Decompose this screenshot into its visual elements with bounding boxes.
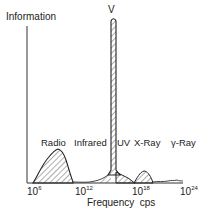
uv-shoulder: [116, 172, 135, 183]
xray-hump: [134, 171, 153, 183]
region-label-gamma: γ-Ray: [171, 138, 196, 148]
x-tick-1e12: 1012: [75, 186, 93, 197]
gamma-tail: [153, 180, 183, 182]
region-label-uv: UV: [117, 138, 130, 148]
x-tick-1e6: 106: [27, 186, 41, 197]
region-label-infrared: Infrared: [74, 138, 107, 148]
radio-hump: [33, 149, 73, 183]
visible-spike: [108, 19, 120, 175]
visible-peak-label: V: [108, 5, 115, 15]
y-axis-label: Information: [6, 12, 56, 22]
uv-shoulder-left: [98, 172, 111, 183]
region-label-radio: Radio: [41, 138, 66, 148]
x-tick-1e18: 1018: [132, 186, 150, 197]
x-tick-1e24: 1024: [180, 186, 198, 197]
region-label-xray: X-Ray: [134, 138, 160, 148]
x-axis-label: Frequency cps: [87, 198, 155, 208]
